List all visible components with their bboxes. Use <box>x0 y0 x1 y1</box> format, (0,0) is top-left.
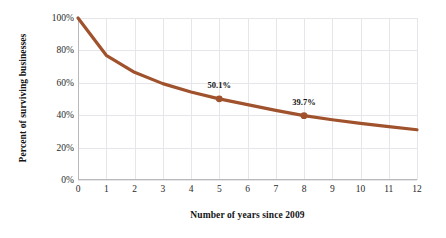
y-axis-tick-label: 80% <box>34 45 74 55</box>
data-point-label: 39.7% <box>292 97 315 107</box>
series-line <box>78 18 417 130</box>
y-axis-tick-label: 20% <box>34 143 74 153</box>
y-axis-tick-label: 100% <box>34 13 74 23</box>
x-axis-tick-label: 7 <box>264 184 288 194</box>
x-axis-tick-label: 2 <box>123 184 147 194</box>
plot-area <box>78 18 417 180</box>
y-axis-title: Percent of surviving businesses <box>18 13 28 183</box>
x-axis-tick-label: 6 <box>236 184 260 194</box>
x-axis-tick-label: 11 <box>377 184 401 194</box>
data-point-marker <box>216 95 223 102</box>
x-axis-tick-label: 12 <box>405 184 429 194</box>
gridline-vertical <box>417 18 418 180</box>
x-axis-tick-label: 5 <box>207 184 231 194</box>
x-axis-tick-label: 3 <box>151 184 175 194</box>
x-axis-tick-label: 8 <box>292 184 316 194</box>
y-axis-tick-label: 60% <box>34 78 74 88</box>
data-series-line <box>78 18 417 180</box>
y-axis-tick-label: 40% <box>34 110 74 120</box>
x-axis-tick-label: 4 <box>179 184 203 194</box>
data-point-label: 50.1% <box>208 80 231 90</box>
x-axis-title: Number of years since 2009 <box>78 210 417 220</box>
x-axis-tick-label: 0 <box>66 184 90 194</box>
data-point-marker <box>301 112 308 119</box>
x-axis-tick-label: 10 <box>349 184 373 194</box>
x-axis-tick-label: 1 <box>94 184 118 194</box>
x-axis-tick-label: 9 <box>320 184 344 194</box>
chart-figure: 0%20%40%60%80%100% 0123456789101112 50.1… <box>0 0 446 238</box>
gridline-horizontal <box>78 180 417 181</box>
